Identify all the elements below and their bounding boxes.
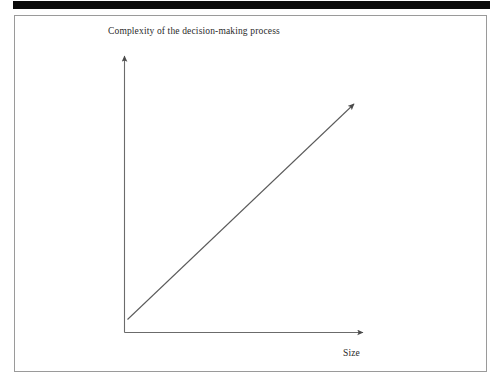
scan-artifact-band <box>13 1 490 9</box>
figure-frame: Complexity of the decision-making proces… <box>14 15 487 372</box>
x-axis-title: Size <box>343 349 360 359</box>
trend-line <box>128 104 355 320</box>
chart-graphic <box>15 16 488 373</box>
y-axis-title: Complexity of the decision-making proces… <box>108 27 280 37</box>
chart-plot-area: Complexity of the decision-making proces… <box>15 16 488 373</box>
